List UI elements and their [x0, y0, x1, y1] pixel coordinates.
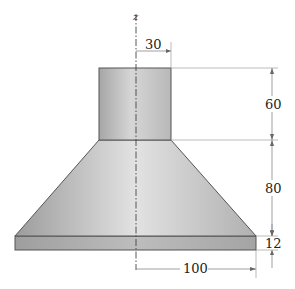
arrowhead-icon	[166, 49, 171, 53]
cylinder	[99, 68, 171, 140]
dimension-base-radius: 100	[136, 250, 256, 278]
dimension-label-100: 100	[183, 261, 208, 276]
dimension-cylinder-height: 60	[263, 68, 283, 140]
arrowhead-icon	[270, 140, 274, 146]
dimension-label-60: 60	[265, 97, 282, 112]
z-axis-label: z	[132, 11, 139, 22]
arrowhead-icon	[270, 68, 274, 74]
dimension-label-30: 30	[145, 37, 162, 52]
base-plate-face	[15, 236, 256, 250]
cone-frustum	[15, 140, 256, 236]
dimension-cone-height: 80	[263, 140, 283, 236]
dimension-top-radius: 30	[136, 37, 171, 68]
arrowhead-icon	[250, 267, 256, 271]
dimension-label-80: 80	[265, 181, 282, 196]
arrowhead-icon	[270, 134, 274, 140]
base-plate	[15, 236, 256, 250]
dimension-label-12: 12	[265, 236, 282, 251]
solid-of-revolution-diagram: z 30 60 80 12 100	[0, 0, 295, 289]
